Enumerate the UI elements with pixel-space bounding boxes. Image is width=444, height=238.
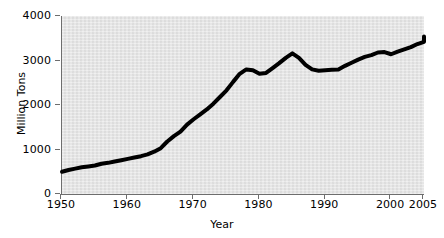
y-tick-3000 [55, 60, 60, 61]
x-axis-title: Year [0, 219, 444, 230]
y-tick-4000 [55, 15, 60, 16]
y-tick-label-4000: 4000 [23, 10, 51, 21]
x-tick-label-1960: 1960 [113, 199, 141, 210]
x-tick-label-1980: 1980 [244, 199, 272, 210]
x-tick-label-1950: 1950 [47, 199, 75, 210]
chart-figure: 01000200030004000 1950196019701980199020… [0, 0, 444, 238]
y-tick-label-3000: 3000 [23, 55, 51, 66]
y-axis-title: Million Tons [16, 44, 27, 164]
x-tick-label-1970: 1970 [178, 199, 206, 210]
y-tick-1000 [55, 149, 60, 150]
y-tick-label-1000: 1000 [23, 144, 51, 155]
data-line [62, 36, 424, 171]
y-tick-2000 [55, 104, 60, 105]
series-line-million-tons [62, 16, 424, 194]
plot-area [61, 16, 424, 195]
x-tick-label-1990: 1990 [310, 199, 338, 210]
x-tick-label-2005: 2005 [409, 199, 437, 210]
y-tick-0 [55, 193, 60, 194]
x-tick-label-2000: 2000 [376, 199, 404, 210]
